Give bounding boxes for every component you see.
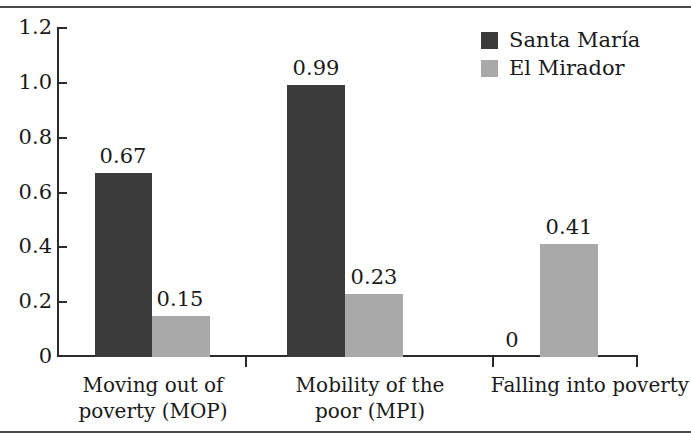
legend-item-santa-maria[interactable]: Santa María	[481, 26, 640, 54]
legend-item-el-mirador[interactable]: El Mirador	[481, 54, 640, 82]
y-tick-mark-0.4	[59, 246, 67, 248]
x-category-label-mpi: Mobility of the poor (MPI)	[250, 372, 490, 424]
y-tick-label-0.6: 0.6	[6, 182, 52, 203]
bar-chart-figure: 1.2 1.0 0.8 0.6 0.4 0.2 0 0.67 0.15	[0, 0, 691, 445]
legend-swatch-icon-santa-maria	[481, 32, 498, 49]
y-tick-label-0.8: 0.8	[6, 127, 52, 148]
y-tick-mark-0.2	[59, 301, 67, 303]
bar-santa-maria-mpi[interactable]	[287, 85, 345, 357]
x-separator-tick-1	[245, 357, 247, 367]
y-tick-mark-0.6	[59, 192, 67, 194]
y-tick-mark-1.2	[59, 27, 67, 29]
x-category-label-mop-line2: poverty (MOP)	[60, 398, 246, 424]
bar-value-santa-maria-mop: 0.67	[92, 146, 154, 167]
y-tick-label-0.2: 0.2	[6, 291, 52, 312]
legend-label-el-mirador: El Mirador	[509, 58, 625, 79]
bar-el-mirador-falling[interactable]	[540, 244, 598, 357]
legend-swatch-icon-el-mirador	[481, 60, 498, 77]
x-category-label-mpi-line1: Mobility of the	[250, 372, 490, 398]
x-category-label-mpi-line2: poor (MPI)	[250, 398, 490, 424]
y-tick-label-1.2: 1.2	[6, 17, 52, 38]
legend-label-santa-maria: Santa María	[509, 30, 640, 51]
y-tick-mark-1.0	[59, 82, 67, 84]
bar-value-el-mirador-falling: 0.41	[538, 217, 600, 238]
bar-value-el-mirador-mpi: 0.23	[343, 267, 405, 288]
bar-el-mirador-mpi[interactable]	[345, 294, 403, 357]
chart-legend: Santa María El Mirador	[481, 26, 640, 82]
x-axis-end-tick	[636, 357, 638, 367]
y-tick-label-0.4: 0.4	[6, 236, 52, 257]
y-tick-label-0: 0	[6, 346, 52, 367]
x-category-label-falling-line1: Falling into poverty	[490, 372, 690, 398]
bar-value-el-mirador-mop: 0.15	[149, 289, 211, 310]
x-separator-tick-2	[492, 357, 494, 367]
x-category-label-mop: Moving out of poverty (MOP)	[60, 372, 246, 424]
bar-el-mirador-mop[interactable]	[152, 316, 210, 357]
bar-santa-maria-mop[interactable]	[95, 173, 152, 357]
bar-value-santa-maria-falling: 0	[481, 330, 543, 351]
bar-value-santa-maria-mpi: 0.99	[285, 58, 347, 79]
x-category-label-falling: Falling into poverty	[490, 372, 690, 398]
x-category-label-mop-line1: Moving out of	[60, 372, 246, 398]
y-tick-mark-0.8	[59, 137, 67, 139]
y-tick-label-1.0: 1.0	[6, 72, 52, 93]
